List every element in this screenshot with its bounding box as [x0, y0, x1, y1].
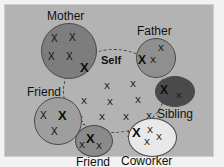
self-label: Self [101, 55, 121, 66]
group-friend-bottom-mark: X [79, 141, 85, 150]
group-mother-mark: X [69, 33, 76, 43]
diagram-canvas: Self XXXXXXXXXXX Mother XXXXX Father XXX… [0, 0, 224, 167]
group-sibling-mark: X [160, 84, 168, 96]
group-mother-mark: X [51, 34, 58, 44]
group-friend-left-mark: X [40, 111, 47, 121]
group-coworker-mark: X [156, 133, 162, 142]
group-sibling-mark: X [176, 92, 181, 100]
self-mark: X [107, 98, 113, 107]
group-father-label: Father [137, 25, 172, 37]
group-friend-bottom-mark: X [96, 142, 102, 151]
self-mark: X [123, 113, 129, 122]
group-friend-bottom-label: Friend [76, 156, 110, 167]
group-coworker-mark: X [132, 126, 141, 139]
group-mother-mark: X [66, 52, 73, 62]
self-mark: X [135, 96, 141, 105]
group-friend-left-mark: X [51, 127, 58, 137]
group-father-mark: X [138, 54, 146, 66]
self-mark: X [99, 113, 105, 122]
group-mother-label: Mother [47, 10, 84, 22]
self-mark: X [104, 82, 110, 91]
group-coworker-mark: X [144, 138, 150, 147]
group-coworker-mark: X [147, 126, 153, 135]
group-mother-mark: X [48, 52, 55, 62]
group-father-mark: X [150, 56, 156, 65]
group-friend-bottom-mark: X [86, 132, 95, 145]
group-father-mark: X [158, 44, 164, 53]
self-mark: X [130, 80, 136, 89]
group-friend-left-label: Friend [27, 86, 61, 98]
group-coworker-label: Coworker [121, 155, 172, 167]
group-mother-mark: X [80, 61, 89, 74]
self-mark: X [81, 97, 87, 106]
group-friend-left-mark: X [58, 109, 67, 122]
diagram-panel: Self XXXXXXXXXXX Mother XXXXX Father XXX… [4, 4, 214, 157]
group-sibling-label: Sibling [157, 108, 193, 120]
